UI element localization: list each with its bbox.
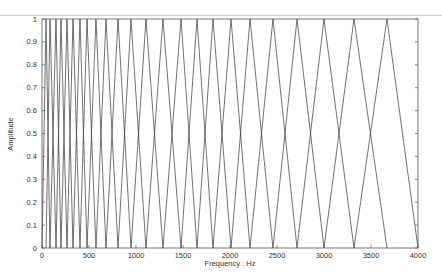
x-axis-ticks: 05001000150020002500300035004000 <box>40 245 426 260</box>
y-tick-label: 1 <box>33 15 37 24</box>
y-tick-label: 0.1 <box>27 221 37 230</box>
x-tick-label: 1500 <box>175 251 192 260</box>
y-tick-label: 0 <box>33 244 37 253</box>
x-tick-label: 500 <box>83 251 96 260</box>
y-tick-label: 0.6 <box>27 106 37 115</box>
filter-triangle <box>61 19 73 248</box>
filter-triangle <box>146 19 181 248</box>
plot-area-border <box>42 19 418 248</box>
x-tick-label: 0 <box>40 251 44 260</box>
y-axis-label: Amplitude <box>6 117 15 150</box>
x-tick-label: 3000 <box>316 251 333 260</box>
filter-triangle <box>181 19 213 248</box>
filter-triangle <box>197 19 231 248</box>
filterbank-chart: 05001000150020002500300035004000 00.10.2… <box>0 0 442 280</box>
filter-triangle <box>213 19 250 248</box>
filter-triangle <box>106 19 131 248</box>
filter-lines <box>42 19 418 248</box>
filter-triangle <box>250 19 297 248</box>
filter-triangle <box>67 19 80 248</box>
filter-triangle <box>87 19 106 248</box>
y-tick-label: 0.3 <box>27 175 37 184</box>
x-tick-label: 1000 <box>128 251 145 260</box>
filter-triangle <box>73 19 87 248</box>
chart-frame: 05001000150020002500300035004000 00.10.2… <box>0 0 442 280</box>
filter-triangle <box>118 19 146 248</box>
x-tick-label: 4000 <box>410 251 427 260</box>
filter-triangle <box>231 19 273 248</box>
filter-triangle <box>163 19 197 248</box>
x-axis-label: Frequency : Hz <box>205 259 256 268</box>
filter-triangle <box>80 19 96 248</box>
y-tick-label: 0.2 <box>27 198 37 207</box>
filter-triangle <box>297 19 354 248</box>
y-tick-label: 0.5 <box>27 129 37 138</box>
y-tick-label: 0.4 <box>27 152 37 161</box>
y-tick-label: 0.9 <box>27 37 37 46</box>
y-tick-label: 0.7 <box>27 83 37 92</box>
filter-triangle <box>50 19 61 248</box>
filter-triangle <box>354 19 418 248</box>
filter-triangle <box>324 19 387 248</box>
y-tick-label: 0.8 <box>27 60 37 69</box>
filter-triangle <box>96 19 118 248</box>
filter-triangle <box>56 19 67 248</box>
x-tick-label: 2500 <box>269 251 286 260</box>
filter-triangle <box>131 19 163 248</box>
x-tick-label: 3500 <box>363 251 380 260</box>
filter-triangle <box>273 19 324 248</box>
